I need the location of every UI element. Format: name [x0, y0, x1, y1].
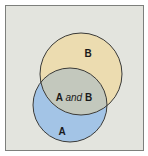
intersection-label-and: and — [65, 92, 82, 103]
set-b-label: B — [84, 48, 91, 59]
intersection-label: A and B — [56, 92, 92, 103]
intersection-label-a: A — [56, 92, 63, 103]
intersection-label-b: B — [85, 92, 92, 103]
set-a-label: A — [58, 126, 65, 137]
venn-diagram — [0, 0, 148, 156]
